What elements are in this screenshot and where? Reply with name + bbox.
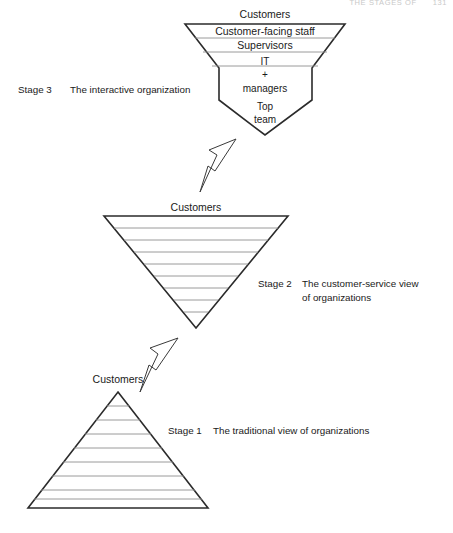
stage3-band-label-0: Customer-facing staff [215,25,315,37]
stage2-customers-label: Customers [171,201,222,213]
arrow-stage2-to-stage3 [200,139,236,192]
stage2-stage-text-line2: of organizations [302,292,371,303]
stage2-stage-text-line1: The customer-service view [302,278,419,289]
stage3-group: Customers Customer-facing staff Supervis… [18,8,345,135]
stage3-band-label-1: Supervisors [237,39,292,51]
arrow-stage1-to-stage2 [140,338,178,392]
stage3-customers-label: Customers [240,8,291,20]
stage3-middle-line-2: managers [243,83,287,94]
stage1-stage-text: The traditional view of organizations [213,425,369,436]
stage3-bottom-line-1: team [254,114,276,125]
diagram-page: THE STAGES OF131 Customers Customer-faci… [0,0,453,533]
stage1-group: Customers Stage 1 The traditional view o… [28,373,369,508]
stage1-customers-label: Customers [93,373,144,385]
organization-stages-diagram: Customers Customer-facing staff Supervis… [0,0,453,533]
stage3-bottom-line-0: Top [257,101,274,112]
stage1-pyramid [28,392,208,508]
stage2-group: Customers Stage 2 The customer-service v… [104,201,419,328]
stage1-stage-number: Stage 1 [168,425,202,436]
stage2-stage-number: Stage 2 [258,278,292,289]
stage3-middle-line-1: + [262,69,268,80]
stage3-middle-line-0: IT [261,56,270,67]
stage3-stage-number: Stage 3 [18,84,52,95]
stage2-inverted-triangle [104,216,288,328]
stage3-stage-text: The interactive organization [70,84,190,95]
